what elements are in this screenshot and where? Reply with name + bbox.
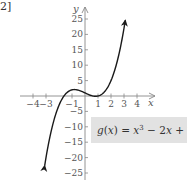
x-tick-label: 4 <box>134 99 140 109</box>
y-tick-label: −20 <box>64 153 83 163</box>
x-tick-label: 1 <box>95 99 101 109</box>
x-tick-label: 3 <box>121 99 127 109</box>
axes: x y −4−3−11234 252015105−5−10−15−20−25 <box>20 3 155 180</box>
y-tick-label: 25 <box>72 14 84 24</box>
corner-label: 2] <box>0 0 11 13</box>
graph: 2] g(x) = x3 − 2x + 1 x y −4−3−11234 252… <box>0 0 188 181</box>
y-axis-label: y <box>72 3 79 14</box>
x-tick-label: 2 <box>108 99 114 109</box>
y-tick-label: 15 <box>72 45 84 55</box>
x-tick-label: −3 <box>39 99 53 109</box>
x-tick-label: −4 <box>26 99 40 109</box>
function-label: g(x) = x3 − 2x + 1 <box>91 117 188 143</box>
y-tick-label: −5 <box>70 106 84 116</box>
y-tick-label: −15 <box>64 137 83 147</box>
y-tick-label: 5 <box>77 76 83 86</box>
y-tick-label: 20 <box>72 29 84 39</box>
y-tick-label: −10 <box>64 122 83 132</box>
x-axis-label: x <box>148 97 154 108</box>
y-tick-label: 10 <box>72 60 84 70</box>
y-tick-label: −25 <box>64 168 83 178</box>
